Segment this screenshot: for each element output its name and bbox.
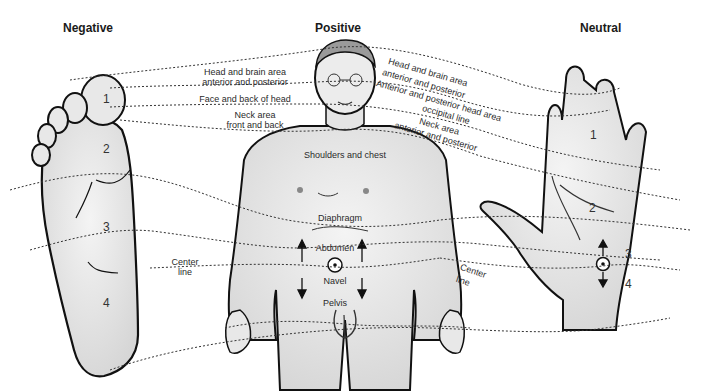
label-shoulders-chest: Shoulders and chest <box>290 150 400 160</box>
title-positive: Positive <box>315 21 361 35</box>
label-face-back-head: Face and back of head <box>186 94 304 104</box>
foot-zone-3: 3 <box>103 220 110 234</box>
polarity-diagram: Negative Positive Neutral 1 2 3 4 1 2 3 … <box>0 0 705 391</box>
label-center-line-left: Center line <box>168 257 202 277</box>
title-negative: Negative <box>63 21 113 35</box>
label-navel: Navel <box>310 276 360 286</box>
foot-zone-2: 2 <box>103 142 110 156</box>
diagram-artwork <box>0 0 705 391</box>
foot-sole-illustration <box>32 75 138 376</box>
label-neck-left: Neck area front and back <box>210 110 300 130</box>
hand-zone-1: 1 <box>590 128 597 142</box>
hand-zone-3: 3 <box>625 247 632 261</box>
label-head-brain-left: Head and brain area anterior and posteri… <box>186 67 304 87</box>
label-diaphragm: Diaphragm <box>305 213 375 223</box>
foot-zone-4: 4 <box>103 296 110 310</box>
label-abdomen: Abdomen <box>305 243 365 253</box>
label-pelvis: Pelvis <box>310 298 360 308</box>
foot-zone-1: 1 <box>103 92 110 106</box>
hand-zone-4: 4 <box>625 277 632 291</box>
hand-palm-illustration <box>480 67 646 331</box>
title-neutral: Neutral <box>580 21 621 35</box>
hand-zone-2: 2 <box>589 201 596 215</box>
